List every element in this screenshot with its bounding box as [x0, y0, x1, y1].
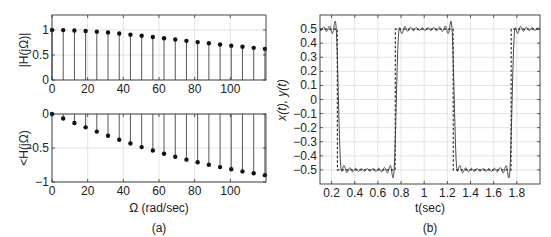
x-tick-label: 0.6 — [370, 186, 387, 200]
stem-marker — [251, 46, 255, 50]
x-tick-label: 1.2 — [439, 186, 456, 200]
y-tick-label: −0.5 — [293, 163, 317, 177]
y-tick-label: 0.4 — [300, 36, 317, 50]
x-tick-label: 1 — [421, 186, 428, 200]
stem-marker — [184, 39, 188, 43]
y-tick-label: 0 — [42, 107, 49, 121]
panel-b-label: (b) — [423, 221, 438, 235]
time-response-plot: 0.20.40.60.811.21.41.61.8−0.5−0.4−0.3−0.… — [293, 15, 540, 200]
stem-marker — [95, 29, 99, 33]
x-tick-label: 40 — [117, 82, 131, 96]
stem-marker — [128, 141, 132, 145]
stem-marker — [240, 169, 244, 173]
y-tick-label: 0 — [42, 73, 49, 87]
stem-marker — [240, 45, 244, 49]
figure-canvas: 02040608010000.51 |H(jΩ)| 020406080100−1… — [0, 0, 551, 237]
stem-marker — [195, 40, 199, 44]
magnitude-stem-plot: 02040608010000.51 — [32, 15, 267, 96]
stem-marker — [173, 37, 177, 41]
stem-marker — [173, 155, 177, 159]
stem-marker — [83, 125, 87, 129]
x-tick-label: 0.8 — [393, 186, 410, 200]
y-tick-label: −1 — [35, 175, 49, 189]
phase-ylabel: <H(jΩ) — [17, 130, 31, 165]
x-tick-label: 0 — [49, 82, 56, 96]
stem-marker — [251, 171, 255, 175]
y-tick-label: 0.5 — [300, 22, 317, 36]
x-tick-label: 60 — [152, 184, 166, 198]
stem-marker — [229, 43, 233, 47]
x-tick-label: 1.4 — [462, 186, 479, 200]
x-tick-label: 0.4 — [346, 186, 363, 200]
x-tick-label: 20 — [81, 82, 95, 96]
stem-marker — [218, 165, 222, 169]
x-tick-label: 60 — [152, 82, 166, 96]
stem-marker — [61, 28, 65, 32]
phase-xlabel: Ω (rad/sec) — [129, 201, 189, 215]
x-tick-label: 80 — [188, 82, 202, 96]
y-tick-label: 0.2 — [300, 64, 317, 78]
stem-marker — [195, 160, 199, 164]
stem-marker — [151, 148, 155, 152]
stem-marker — [83, 29, 87, 33]
phase-stem-plot: 020406080100−1−0.50 — [25, 107, 267, 198]
stem-marker — [139, 34, 143, 38]
stem-marker — [117, 31, 121, 35]
stem-marker — [117, 138, 121, 142]
time-xlabel: t(sec) — [415, 201, 445, 215]
time-ylabel: x(t), y(t) — [275, 79, 289, 121]
y-tick-label: 0 — [310, 93, 317, 107]
x-tick-label: 100 — [220, 184, 240, 198]
y-tick-label: 1 — [42, 23, 49, 37]
y-tick-label: 0.5 — [32, 48, 49, 62]
stem-marker — [229, 167, 233, 171]
y-tick-label: −0.1 — [293, 107, 317, 121]
y-tick-label: 0.3 — [300, 50, 317, 64]
figure: 02040608010000.51 |H(jΩ)| 020406080100−1… — [0, 0, 551, 237]
x-tick-label: 20 — [81, 184, 95, 198]
y-tick-label: −0.4 — [293, 149, 317, 163]
stem-marker — [106, 134, 110, 138]
panel-a-label: (a) — [152, 221, 167, 235]
x-tick-label: 40 — [117, 184, 131, 198]
stem-marker — [151, 35, 155, 39]
x-tick-label: 0.2 — [323, 186, 340, 200]
stem-marker — [207, 163, 211, 167]
stem-marker — [184, 157, 188, 161]
stem-marker — [139, 145, 143, 149]
stem-marker — [162, 36, 166, 40]
stem-marker — [128, 32, 132, 36]
stem-marker — [72, 121, 76, 125]
y-tick-label: 0.1 — [300, 78, 317, 92]
stem-marker — [207, 41, 211, 45]
stem-marker — [106, 30, 110, 34]
y-tick-label: −0.2 — [293, 121, 317, 135]
magnitude-ylabel: |H(jΩ)| — [17, 33, 31, 68]
x-tick-label: 1.6 — [485, 186, 502, 200]
stem-marker — [218, 42, 222, 46]
y-tick-label: −0.3 — [293, 135, 317, 149]
x-tick-label: 0 — [49, 184, 56, 198]
x-tick-label: 80 — [188, 184, 202, 198]
x-tick-label: 100 — [220, 82, 240, 96]
x-tick-label: 1.8 — [508, 186, 525, 200]
stem-marker — [61, 116, 65, 120]
stem-marker — [95, 129, 99, 133]
stem-marker — [162, 152, 166, 156]
stem-marker — [72, 28, 76, 32]
